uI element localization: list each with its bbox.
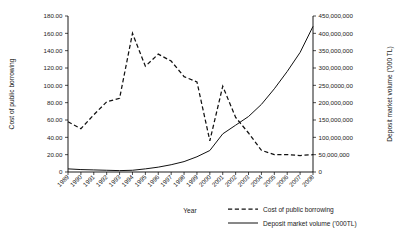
x-axis-tick-label: 1999 — [184, 173, 199, 188]
x-axis-tick-label: 1993 — [107, 173, 122, 188]
x-axis-tick-label: 2005 — [262, 173, 277, 188]
x-axis-title: Year — [183, 207, 197, 214]
y-axis-left-title: Cost of public borrowing — [8, 58, 16, 129]
y-axis-left-tick-label: 100.00 — [44, 82, 63, 89]
series-cost-of-public-borrowing — [68, 33, 313, 155]
x-axis-tick-label: 2004 — [249, 173, 264, 188]
y-axis-left-tick-labels: 020.0040.0060.0080.00100.00120.00140.001… — [44, 12, 63, 175]
x-axis-tick-label: 2008 — [301, 173, 316, 188]
x-axis-tick-label: 1990 — [68, 173, 83, 188]
y-axis-left-tick-label: 180.00 — [44, 12, 63, 19]
y-axis-right-tick-labels: 050,000,000100,000,000150,000,000200,000… — [319, 12, 354, 175]
y-axis-left-tick-label: 80.00 — [47, 99, 63, 106]
y-axis-right-tick-marks — [313, 16, 316, 172]
y-axis-left-tick-label: 140.00 — [44, 47, 63, 54]
y-axis-left-tick-label: 20.00 — [47, 151, 63, 158]
x-axis-tick-label: 2003 — [236, 173, 251, 188]
chart-figure: 020.0040.0060.0080.00100.00120.00140.001… — [0, 0, 408, 239]
x-axis-tick-label: 2001 — [210, 173, 225, 188]
legend-item-cost-of-public-borrowing: Cost of public borrowing — [228, 206, 334, 214]
y-axis-right-tick-label: 450,000,000 — [319, 12, 354, 19]
y-axis-right-tick-label: 400,000,000 — [319, 30, 354, 37]
x-axis-tick-label: 2002 — [223, 173, 238, 188]
y-axis-left-tick-label: 120.00 — [44, 64, 63, 71]
x-axis-tick-label: 2006 — [275, 173, 290, 188]
y-axis-right-tick-label: 250,0000,00 — [319, 82, 354, 89]
x-axis-tick-label: 1995 — [133, 173, 148, 188]
y-axis-right-tick-label: 350,000,000 — [319, 47, 354, 54]
y-axis-right-title: Deposit market volume ('000 TL) — [386, 46, 394, 141]
x-axis-tick-label: 1997 — [159, 173, 174, 188]
y-axis-right-tick-label: 50,000,000 — [319, 151, 351, 158]
x-axis-tick-labels: 1989199019911992199319941995199619971998… — [56, 173, 316, 188]
y-axis-left-tick-label: 160.00 — [44, 30, 63, 37]
x-axis-tick-label: 1996 — [146, 173, 161, 188]
x-axis-tick-label: 1991 — [81, 173, 96, 188]
legend-label-deposit-market-volume: Deposit market volume ('000TL) — [263, 220, 357, 228]
x-axis-tick-label: 2000 — [197, 173, 212, 188]
x-axis-tick-label: 1998 — [172, 173, 187, 188]
y-axis-left-tick-label: 40.00 — [47, 134, 63, 141]
y-axis-left-tick-label: 60.00 — [47, 116, 63, 123]
legend-label-cost-of-public-borrowing: Cost of public borrowing — [263, 206, 334, 214]
x-axis-tick-label: 1994 — [120, 173, 135, 188]
chart-legend: Cost of public borrowing Deposit market … — [228, 206, 357, 228]
y-axis-right-tick-label: 150,000,000 — [319, 116, 354, 123]
legend-item-deposit-market-volume: Deposit market volume ('000TL) — [228, 220, 357, 228]
x-axis-tick-label: 1992 — [94, 173, 109, 188]
y-axis-right-tick-label: 0 — [319, 168, 323, 175]
x-axis-tick-label: 1989 — [56, 173, 71, 188]
y-axis-left-tick-label: 0 — [59, 168, 63, 175]
y-axis-right-tick-label: 200,000,000 — [319, 99, 354, 106]
y-axis-right-tick-label: 300,000,000 — [319, 64, 354, 71]
series-deposit-market-volume — [68, 26, 313, 170]
x-axis-tick-label: 2007 — [288, 173, 303, 188]
y-axis-right-tick-label: 100,000,000 — [319, 134, 354, 141]
